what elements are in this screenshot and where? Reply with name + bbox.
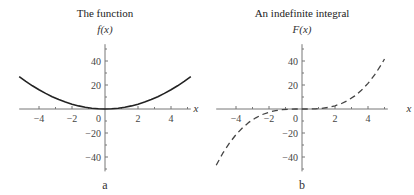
x-tick-label: −2	[67, 113, 78, 124]
x-tick-label: 4	[169, 113, 174, 124]
origin-label: 0	[96, 113, 101, 124]
panel-label: a	[102, 178, 108, 192]
origin-label: 0	[293, 113, 298, 124]
figure: The functionf(x)x−4−22404020−20−40a An i…	[0, 0, 414, 195]
y-axis-label: f(x)	[97, 23, 113, 36]
y-tick-label: −20	[282, 128, 298, 139]
x-tick-label: −4	[34, 113, 45, 124]
series-line	[216, 59, 384, 165]
x-tick-label: 2	[333, 113, 338, 124]
y-tick-label: 20	[288, 80, 298, 91]
x-tick-label: 2	[136, 113, 141, 124]
y-tick-label: 20	[91, 80, 101, 91]
x-tick-label: −2	[264, 113, 275, 124]
x-axis-label: x	[406, 102, 412, 114]
y-tick-label: −40	[85, 152, 101, 163]
panel-label: b	[299, 178, 305, 192]
x-tick-label: −4	[231, 113, 242, 124]
panel-a: The functionf(x)x−4−22404020−20−40a	[19, 7, 198, 192]
x-tick-label: 4	[366, 113, 371, 124]
chart-title: An indefinite integral	[255, 7, 350, 19]
x-axis-label: x	[193, 102, 199, 114]
panel-b: An indefinite integralF(x)x−4−22404020−2…	[216, 7, 411, 192]
y-axis-label: F(x)	[292, 23, 312, 36]
chart-title: The function	[77, 7, 134, 19]
y-tick-label: −40	[282, 152, 298, 163]
y-tick-label: −20	[85, 128, 101, 139]
y-tick-label: 40	[91, 56, 101, 67]
y-tick-label: 40	[288, 56, 298, 67]
